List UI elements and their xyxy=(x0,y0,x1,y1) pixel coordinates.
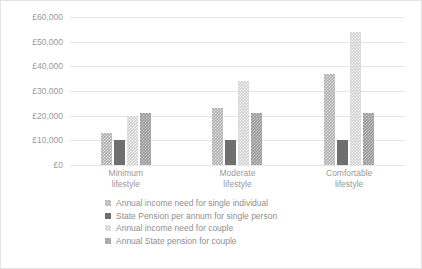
legend-label: Annual State pension for couple xyxy=(116,237,237,246)
x-axis-category-label-line: lifestyle xyxy=(70,179,182,190)
bar xyxy=(114,140,125,165)
bar xyxy=(140,113,151,165)
legend-label: Annual income need for single individual xyxy=(116,199,268,208)
x-axis-category-label: Moderatelifestyle xyxy=(182,168,294,191)
bar-group xyxy=(293,17,405,165)
x-axis-category-label-line: Minimum xyxy=(70,168,182,179)
y-axis-tick-label: £50,000 xyxy=(3,37,63,46)
legend-item[interactable]: Annual State pension for couple xyxy=(105,235,355,248)
legend-item[interactable]: State Pension per annum for single perso… xyxy=(105,210,355,223)
bar xyxy=(337,140,348,165)
chart-container: £60,000£50,000£40,000£30,000£20,000£10,0… xyxy=(0,0,422,269)
bar-group xyxy=(70,17,182,165)
legend-swatch-icon xyxy=(105,225,111,231)
bar-group xyxy=(182,17,294,165)
legend-item[interactable]: Annual income need for single individual xyxy=(105,197,355,210)
x-axis-category-label-line: Moderate xyxy=(182,168,294,179)
y-axis-tick-label: £20,000 xyxy=(3,111,63,120)
y-axis: £60,000£50,000£40,000£30,000£20,000£10,0… xyxy=(1,17,63,165)
legend-swatch-icon xyxy=(105,200,111,206)
y-axis-tick-label: £30,000 xyxy=(3,87,63,96)
legend-label: State Pension per annum for single perso… xyxy=(116,212,277,221)
bar xyxy=(225,140,236,165)
bar xyxy=(251,113,262,165)
gridline xyxy=(70,165,405,166)
x-axis-category-label-line: Comfortable xyxy=(293,168,405,179)
x-axis: MinimumlifestyleModeratelifestyleComfort… xyxy=(70,168,405,192)
bar xyxy=(101,133,112,165)
x-axis-category-label-line: lifestyle xyxy=(182,179,294,190)
x-axis-category-label: Comfortablelifestyle xyxy=(293,168,405,191)
legend-swatch-icon xyxy=(105,238,111,244)
y-axis-tick-label: £40,000 xyxy=(3,62,63,71)
x-axis-category-label: Minimumlifestyle xyxy=(70,168,182,191)
plot-area xyxy=(70,17,405,165)
bar xyxy=(363,113,374,165)
bar xyxy=(350,32,361,165)
legend-label: Annual income need for couple xyxy=(116,224,233,233)
bar xyxy=(238,81,249,165)
y-axis-tick-label: £60,000 xyxy=(3,13,63,22)
bar xyxy=(127,116,138,165)
bar xyxy=(212,108,223,165)
legend-swatch-icon xyxy=(105,213,111,219)
y-axis-tick-label: £0 xyxy=(3,161,63,170)
x-axis-category-label-line: lifestyle xyxy=(293,179,405,190)
chart-legend: Annual income need for single individual… xyxy=(105,197,355,247)
legend-item[interactable]: Annual income need for couple xyxy=(105,222,355,235)
bar xyxy=(324,74,335,165)
y-axis-tick-label: £10,000 xyxy=(3,136,63,145)
